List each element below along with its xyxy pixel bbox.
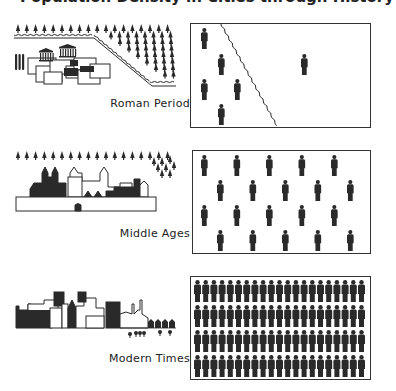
tree-icon xyxy=(126,31,130,40)
tree-icon xyxy=(42,151,46,160)
tree-icon xyxy=(153,57,157,66)
person-icon xyxy=(309,280,316,302)
tree-icon xyxy=(51,151,55,160)
tree-icon xyxy=(160,31,164,40)
tree-icon xyxy=(86,151,90,160)
tree-icon xyxy=(172,161,176,170)
tree-icon xyxy=(139,24,143,33)
tree-icon xyxy=(130,151,134,160)
tree-icon xyxy=(134,31,138,40)
person-icon xyxy=(350,305,357,327)
tree-icon xyxy=(161,44,165,53)
person-icon xyxy=(218,104,225,125)
person-icon xyxy=(234,79,241,100)
person-icon xyxy=(202,280,209,302)
tree-icon xyxy=(151,31,155,40)
person-icon xyxy=(301,305,308,327)
person-icon xyxy=(194,280,201,302)
tree-icon xyxy=(156,163,160,172)
tree-icon xyxy=(117,31,121,40)
tree-icon xyxy=(25,151,29,160)
person-icon xyxy=(350,280,357,302)
person-icon xyxy=(235,330,242,352)
person-icon xyxy=(309,305,316,327)
tree-icon xyxy=(95,24,99,33)
person-icon xyxy=(210,280,217,302)
tree-icon xyxy=(153,50,157,59)
tree-icon xyxy=(77,24,81,33)
person-icon xyxy=(325,305,332,327)
tree-icon xyxy=(139,151,143,160)
tree-icon xyxy=(104,151,108,160)
person-icon xyxy=(235,280,242,302)
person-icon xyxy=(202,355,209,377)
tree-icon xyxy=(86,24,90,33)
person-icon xyxy=(309,330,316,352)
tree-icon xyxy=(69,151,73,160)
tree-icon xyxy=(118,37,122,46)
person-icon xyxy=(284,305,291,327)
person-icon xyxy=(219,280,226,302)
roman-density-panel xyxy=(190,23,371,128)
person-icon xyxy=(217,230,224,251)
tree-icon xyxy=(162,63,166,72)
person-icon xyxy=(227,280,234,302)
person-icon xyxy=(292,305,299,327)
person-icon xyxy=(234,205,241,226)
modern-city-illustration xyxy=(14,290,176,346)
tree-icon xyxy=(143,37,147,46)
person-icon xyxy=(284,280,291,302)
person-icon xyxy=(243,305,250,327)
person-icon xyxy=(325,280,332,302)
person-icon xyxy=(358,330,365,352)
person-icon xyxy=(219,355,226,377)
person-icon xyxy=(342,330,349,352)
person-icon xyxy=(260,330,267,352)
person-icon xyxy=(358,355,365,377)
tree-icon xyxy=(33,24,37,33)
person-icon xyxy=(251,305,258,327)
person-icon xyxy=(325,330,332,352)
tree-icon xyxy=(171,70,175,79)
house-icon xyxy=(169,319,175,328)
person-icon xyxy=(325,355,332,377)
person-icon xyxy=(250,180,257,201)
tree-icon xyxy=(60,24,64,33)
tree-icon xyxy=(169,37,173,46)
tree-icon xyxy=(152,44,156,53)
middle-ages-density-panel xyxy=(192,150,371,254)
tree-icon xyxy=(160,37,164,46)
tree-icon xyxy=(170,57,174,66)
tree-icon xyxy=(16,151,20,160)
person-icon xyxy=(358,305,365,327)
person-icon xyxy=(301,330,308,352)
temple-icon xyxy=(59,44,76,58)
person-icon xyxy=(268,280,275,302)
tree-icon xyxy=(60,151,64,160)
person-icon xyxy=(333,330,340,352)
person-icon xyxy=(347,230,354,251)
person-icon xyxy=(301,355,308,377)
person-icon xyxy=(217,180,224,201)
person-icon xyxy=(276,330,283,352)
tree-icon xyxy=(127,44,131,53)
tree-icon xyxy=(168,31,172,40)
tree-icon xyxy=(157,151,161,160)
tree-icon xyxy=(154,63,158,72)
tree-icon xyxy=(130,24,134,33)
tree-icon xyxy=(162,57,166,66)
person-icon xyxy=(251,355,258,377)
house-icon xyxy=(162,319,168,328)
person-icon xyxy=(194,355,201,377)
person-icon xyxy=(309,355,316,377)
person-icon xyxy=(194,330,201,352)
person-icon xyxy=(333,305,340,327)
person-icon xyxy=(251,330,258,352)
person-icon xyxy=(301,54,308,75)
person-icon xyxy=(201,79,208,100)
medieval-castle xyxy=(16,167,156,211)
city-wall-line xyxy=(221,24,277,126)
small-tree-icon xyxy=(138,331,142,337)
person-icon xyxy=(250,230,257,251)
tree-icon xyxy=(121,151,125,160)
